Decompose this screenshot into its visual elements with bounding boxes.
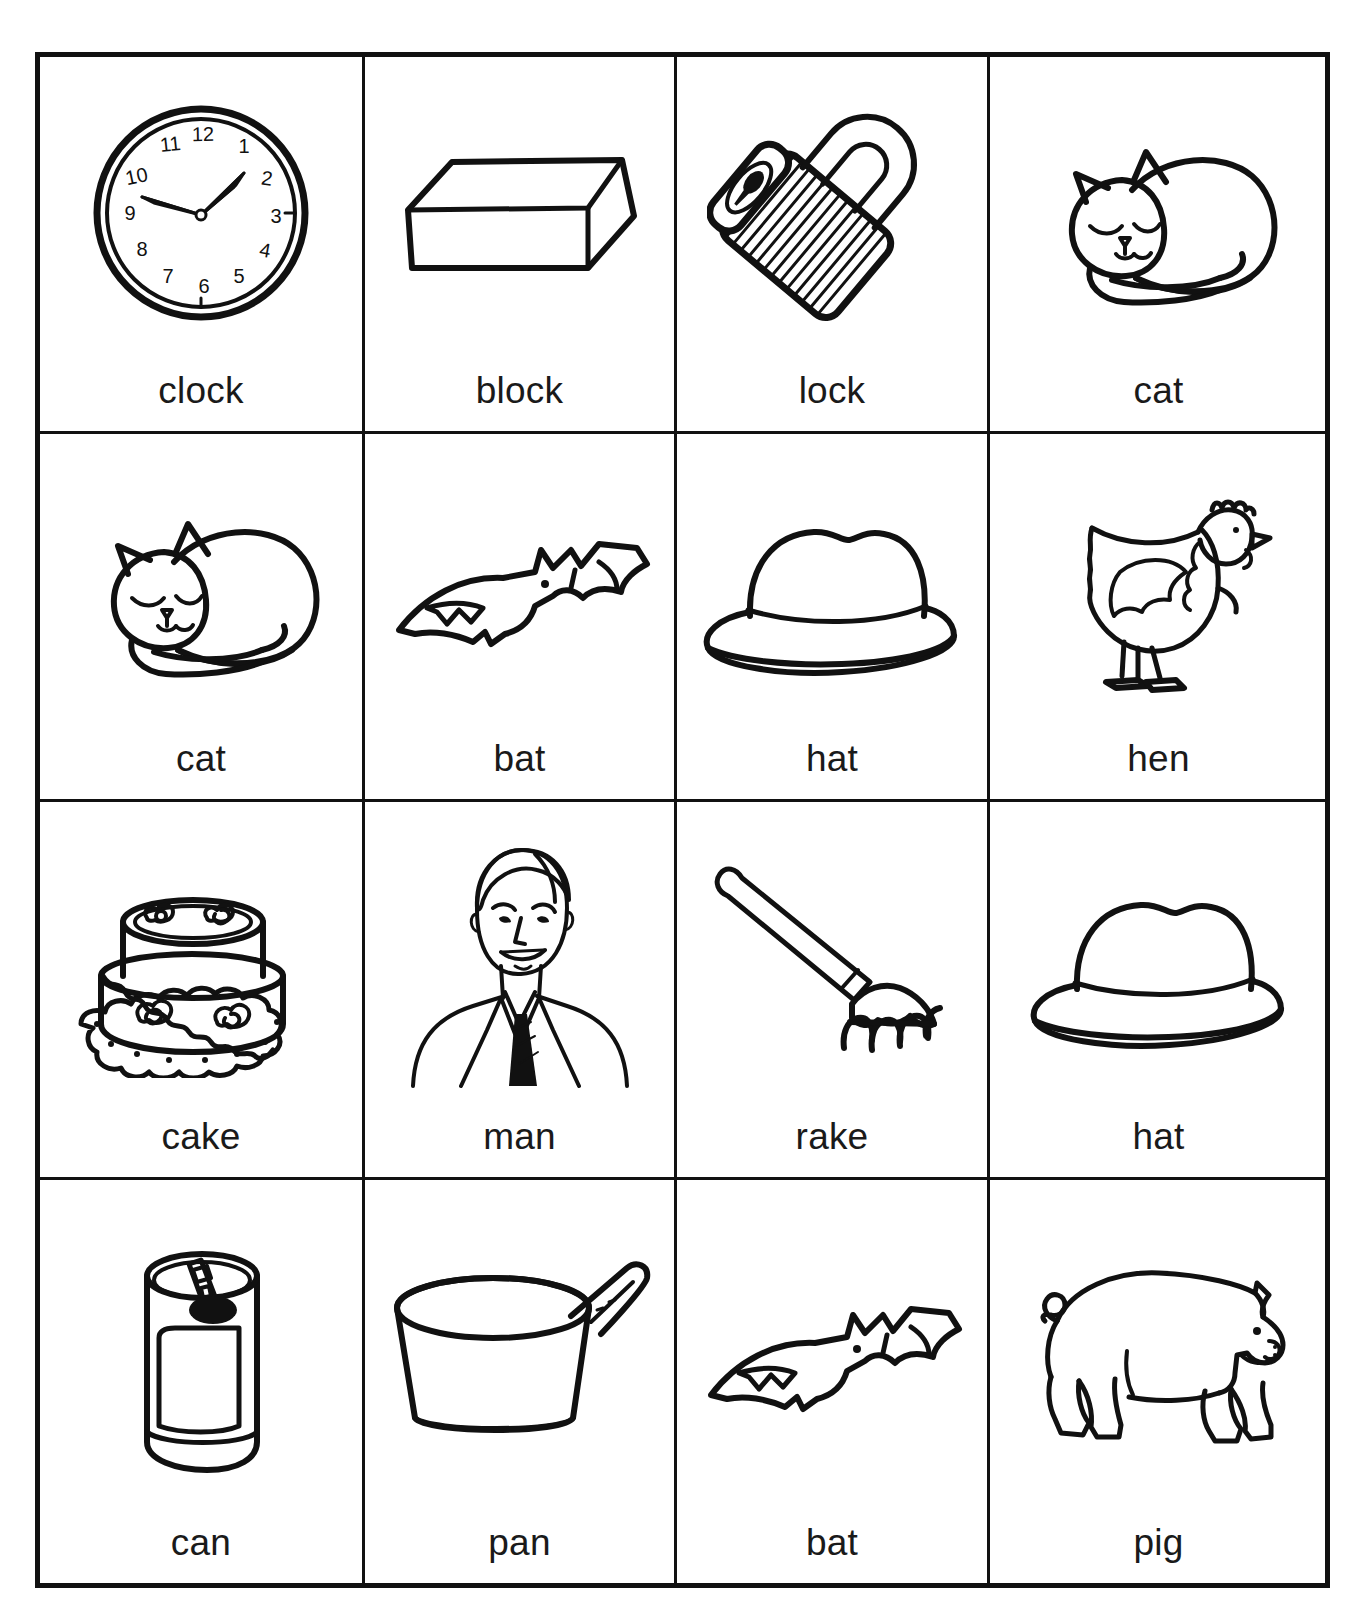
rectangular-block-icon bbox=[365, 57, 674, 372]
svg-text:12: 12 bbox=[192, 122, 215, 144]
card-cell-hat-1[interactable]: hat bbox=[677, 434, 990, 802]
flying-bat-icon bbox=[365, 434, 674, 740]
garden-rake-icon bbox=[677, 802, 987, 1118]
svg-text:10: 10 bbox=[123, 163, 149, 189]
card-cell-block[interactable]: block bbox=[365, 57, 677, 434]
card-cell-lock[interactable]: lock bbox=[677, 57, 990, 434]
card-label: clock bbox=[40, 372, 362, 431]
card-cell-cake[interactable]: cake bbox=[40, 802, 365, 1180]
card-label: man bbox=[365, 1118, 674, 1177]
card-label: pig bbox=[990, 1524, 1327, 1583]
svg-text:11: 11 bbox=[159, 132, 182, 156]
card-cell-cat-2[interactable]: cat bbox=[40, 434, 365, 802]
svg-text:4: 4 bbox=[258, 238, 273, 262]
svg-text:5: 5 bbox=[233, 265, 244, 287]
svg-text:9: 9 bbox=[124, 202, 135, 224]
card-label: hat bbox=[677, 740, 987, 799]
card-cell-hen[interactable]: hen bbox=[990, 434, 1327, 802]
card-label: hen bbox=[990, 740, 1327, 799]
svg-text:2: 2 bbox=[260, 166, 274, 189]
svg-text:8: 8 bbox=[136, 238, 147, 260]
fedora-hat-icon bbox=[677, 434, 987, 740]
card-label: cat bbox=[40, 740, 362, 799]
card-cell-hat-2[interactable]: hat bbox=[990, 802, 1327, 1180]
wall-clock-icon: 12 1 2 3 4 5 6 7 8 9 10 11 bbox=[40, 57, 362, 372]
layer-cake-icon bbox=[40, 802, 362, 1118]
fedora-hat-icon bbox=[990, 802, 1327, 1118]
card-cell-cat-1[interactable]: cat bbox=[990, 57, 1327, 434]
flying-bat-icon bbox=[677, 1180, 987, 1524]
card-label: hat bbox=[990, 1118, 1327, 1177]
card-cell-pan[interactable]: pan bbox=[365, 1180, 677, 1583]
card-cell-rake[interactable]: rake bbox=[677, 802, 990, 1180]
svg-text:3: 3 bbox=[270, 205, 281, 227]
card-label: bat bbox=[677, 1524, 987, 1583]
card-label: pan bbox=[365, 1524, 674, 1583]
hen-icon bbox=[990, 434, 1327, 740]
picture-word-grid: 12 1 2 3 4 5 6 7 8 9 10 11 bbox=[35, 52, 1330, 1588]
sleeping-cat-icon bbox=[40, 434, 362, 740]
card-cell-can[interactable]: can bbox=[40, 1180, 365, 1583]
card-label: can bbox=[40, 1524, 362, 1583]
top-cropped-note bbox=[0, 0, 1361, 34]
man-portrait-icon bbox=[365, 802, 674, 1118]
padlock-icon bbox=[677, 57, 987, 372]
card-label: rake bbox=[677, 1118, 987, 1177]
card-cell-bat-1[interactable]: bat bbox=[365, 434, 677, 802]
card-label: cake bbox=[40, 1118, 362, 1177]
soda-can-icon bbox=[40, 1180, 362, 1524]
card-cell-man[interactable]: man bbox=[365, 802, 677, 1180]
card-label: lock bbox=[677, 372, 987, 431]
svg-text:1: 1 bbox=[238, 135, 249, 157]
grid-container: 12 1 2 3 4 5 6 7 8 9 10 11 bbox=[40, 57, 1325, 1583]
svg-text:6: 6 bbox=[198, 275, 209, 297]
pig-icon bbox=[990, 1180, 1327, 1524]
card-label: cat bbox=[990, 372, 1327, 431]
card-label: block bbox=[365, 372, 674, 431]
card-cell-bat-2[interactable]: bat bbox=[677, 1180, 990, 1583]
sauce-pan-icon bbox=[365, 1180, 674, 1524]
card-cell-clock[interactable]: 12 1 2 3 4 5 6 7 8 9 10 11 bbox=[40, 57, 365, 434]
card-cell-pig[interactable]: pig bbox=[990, 1180, 1327, 1583]
sleeping-cat-icon bbox=[990, 57, 1327, 372]
svg-text:7: 7 bbox=[162, 265, 173, 287]
card-label: bat bbox=[365, 740, 674, 799]
